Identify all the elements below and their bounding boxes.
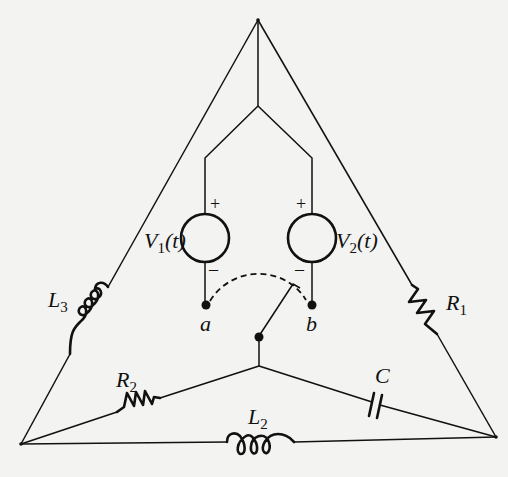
left-corner-node-icon xyxy=(19,442,23,446)
inductor-l3-icon xyxy=(70,283,108,354)
left-branch-wire xyxy=(21,20,258,444)
circuit-diagram: + – V1(t) + – V2(t) a b xyxy=(0,0,508,477)
terminal-node-icon xyxy=(202,301,211,310)
right-corner-node-icon xyxy=(494,435,498,439)
source-circle-icon xyxy=(181,214,229,262)
resistor-r2-icon xyxy=(117,391,160,412)
label-r1: R1 xyxy=(445,290,467,318)
v1-plus-sign: + xyxy=(210,194,220,214)
bottom-branch xyxy=(21,434,496,454)
label-c: C xyxy=(375,363,390,388)
inductor-l2-icon xyxy=(227,434,294,454)
spdt-switch xyxy=(210,274,306,366)
label-l3: L3 xyxy=(47,287,68,315)
capacitor-c-icon xyxy=(369,393,382,418)
svg-text:b: b xyxy=(306,311,317,336)
v2-minus-sign: – xyxy=(294,259,305,279)
source-feed-wires xyxy=(205,20,312,213)
terminal-b: b xyxy=(306,301,317,337)
v2-plus-sign: + xyxy=(296,194,306,214)
svg-text:a: a xyxy=(200,311,211,336)
terminal-a: a xyxy=(200,301,211,337)
resistor-r1-icon xyxy=(409,285,437,334)
v2-label: V2(t) xyxy=(336,228,378,256)
v1-minus-sign: – xyxy=(208,259,219,279)
v1-label: V1(t) xyxy=(144,228,186,256)
top-corner-node-icon xyxy=(256,18,260,22)
label-r2: R2 xyxy=(115,367,137,395)
source-circle-icon xyxy=(288,214,336,262)
switch-lever-icon xyxy=(259,284,300,336)
terminal-node-icon xyxy=(308,301,317,310)
label-l2: L2 xyxy=(247,404,268,432)
voltage-source-v2: + – V2(t) xyxy=(288,194,378,305)
voltage-source-v1: + – V1(t) xyxy=(144,194,229,305)
